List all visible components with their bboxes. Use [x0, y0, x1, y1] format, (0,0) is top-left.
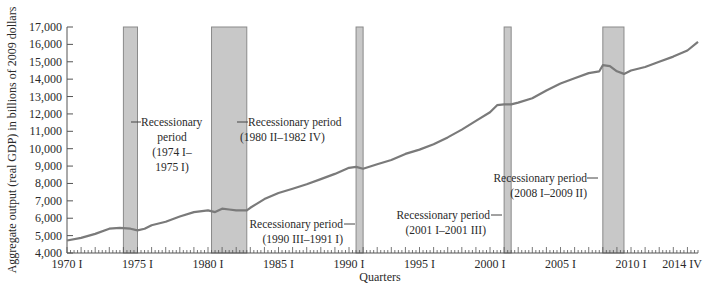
- annotation-2001: Recessionary period (2001 I–2001 III): [396, 209, 502, 237]
- recession-band-4: [504, 27, 511, 253]
- x-tick-label: 2000 I: [475, 257, 506, 271]
- svg-text:Recessionary period: Recessionary period: [493, 172, 587, 185]
- annotation-1974: Recessionary period (1974 I– 1975 I): [131, 116, 203, 174]
- x-tick-label: 1995 I: [404, 257, 435, 271]
- x-tick-label: 1990 I: [334, 257, 365, 271]
- x-tick-label: 1980 I: [193, 257, 224, 271]
- y-tick-label: 14,000: [29, 72, 62, 86]
- recession-band-1: [123, 27, 137, 253]
- y-tick-label: 5,000: [35, 229, 62, 243]
- gdp-chart: 4,0005,0006,0007,0008,0009,00010,00011,0…: [0, 0, 717, 293]
- recession-band-3: [356, 27, 363, 253]
- svg-text:1975 I): 1975 I): [155, 161, 189, 174]
- y-tick-label: 10,000: [29, 142, 62, 156]
- y-tick-label: 8,000: [35, 176, 62, 190]
- x-tick-label: 2010 I: [616, 257, 647, 271]
- y-tick-label: 7,000: [35, 194, 62, 208]
- svg-text:period: period: [157, 131, 187, 144]
- x-tick-label: 1975 I: [122, 257, 153, 271]
- annotation-1990: Recessionary period (1990 III–1991 I): [249, 218, 355, 246]
- svg-text:Recessionary period: Recessionary period: [396, 209, 490, 222]
- svg-text:(2008 I–2009 II): (2008 I–2009 II): [510, 187, 587, 200]
- recession-band-5: [603, 27, 624, 253]
- x-tick-label: 1970 I: [52, 257, 83, 271]
- svg-text:(2001 I–2001 III): (2001 I–2001 III): [406, 224, 487, 237]
- y-axis-title: Aggregate output (real GDP) in billions …: [5, 6, 19, 273]
- y-axis-ticks: 4,0005,0006,0007,0008,0009,00010,00011,0…: [29, 20, 73, 260]
- svg-text:Recessionary period: Recessionary period: [249, 218, 343, 231]
- annotation-1980: Recessionary period (1980 II–1982 IV): [237, 116, 342, 144]
- svg-text:Recessionary period: Recessionary period: [248, 116, 342, 129]
- svg-text:(1980 II–1982 IV): (1980 II–1982 IV): [240, 131, 325, 144]
- x-tick-label: 1985 I: [263, 257, 294, 271]
- y-tick-label: 16,000: [29, 37, 62, 51]
- svg-text:(1990 III–1991 I): (1990 III–1991 I): [263, 233, 344, 246]
- svg-text:Recessionary: Recessionary: [141, 116, 203, 129]
- y-tick-label: 9,000: [35, 159, 62, 173]
- x-axis-title: Quarters: [359, 270, 401, 284]
- y-tick-label: 11,000: [29, 124, 62, 138]
- x-tick-label: 2014 IV: [662, 257, 702, 271]
- y-tick-label: 13,000: [29, 90, 62, 104]
- y-tick-label: 6,000: [35, 211, 62, 225]
- recession-shades: [123, 27, 624, 253]
- x-tick-label: 2005 I: [545, 257, 576, 271]
- svg-text:(1974 I–: (1974 I–: [152, 146, 192, 159]
- y-tick-label: 17,000: [29, 20, 62, 34]
- y-tick-label: 12,000: [29, 107, 62, 121]
- y-tick-label: 15,000: [29, 55, 62, 69]
